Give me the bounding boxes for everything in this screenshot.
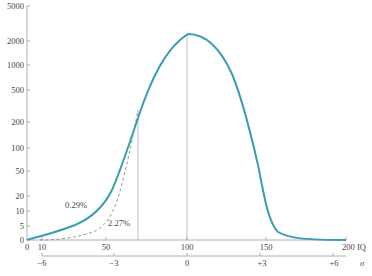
y-label-2000: 2000 xyxy=(7,36,24,46)
y-label-500: 500 xyxy=(11,85,24,95)
annotation-solid-tail: 0.29% xyxy=(65,200,87,210)
y-label-100: 100 xyxy=(11,143,24,153)
y-label-200: 200 xyxy=(11,117,24,127)
sigma-label-minus6: −6 xyxy=(37,258,46,268)
sigma-label-plus3: +3 xyxy=(257,258,266,268)
y-label-5: 5 xyxy=(20,221,24,231)
y-label-10: 10 xyxy=(16,206,25,216)
sigma-label-0: 0 xyxy=(185,258,189,268)
x-tick-labels: 0 10 50 100 150 200 IQ xyxy=(25,242,366,252)
sigma-label-plus6: +6 xyxy=(329,258,338,268)
y-label-0: 0 xyxy=(20,235,24,245)
annotation-dashed-tail: 2.27% xyxy=(108,218,130,228)
y-label-20: 20 xyxy=(16,191,25,201)
x-label-200-iq: 200 IQ xyxy=(342,242,366,252)
sigma-symbol: σ xyxy=(360,258,365,268)
x-label-100: 100 xyxy=(181,242,194,252)
iq-distribution-chart: 5000 2000 1000 500 200 100 50 20 10 5 0 … xyxy=(0,0,372,276)
x-label-50: 50 xyxy=(102,242,111,252)
x-label-10: 10 xyxy=(38,242,47,252)
sigma-ticks xyxy=(42,253,333,256)
y-ticks xyxy=(27,6,30,226)
y-label-1000: 1000 xyxy=(7,60,24,70)
x-label-150: 150 xyxy=(260,242,273,252)
x-label-0: 0 xyxy=(25,242,29,252)
y-tick-labels: 5000 2000 1000 500 200 100 50 20 10 5 0 xyxy=(7,1,24,245)
y-label-50: 50 xyxy=(16,166,25,176)
sigma-label-minus3: −3 xyxy=(109,258,118,268)
sigma-tick-labels: −6 −3 0 +3 +6 σ xyxy=(37,258,364,268)
y-label-5000: 5000 xyxy=(7,1,24,11)
